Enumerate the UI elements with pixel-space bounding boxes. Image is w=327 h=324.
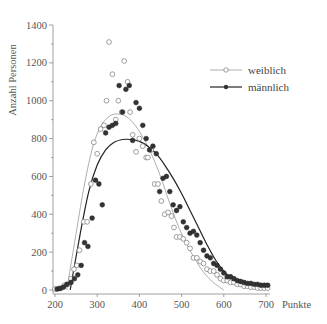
point-weiblich bbox=[110, 72, 115, 77]
point-maennlich bbox=[157, 189, 162, 194]
point-maennlich bbox=[103, 130, 108, 135]
point-maennlich bbox=[93, 178, 98, 183]
point-weiblich bbox=[145, 155, 150, 160]
y-tick-label: 0 bbox=[42, 285, 47, 296]
point-maennlich bbox=[221, 271, 226, 276]
point-weiblich bbox=[184, 240, 189, 245]
point-maennlich bbox=[69, 280, 74, 285]
point-maennlich bbox=[117, 83, 122, 88]
point-weiblich bbox=[128, 110, 133, 115]
point-weiblich bbox=[156, 182, 161, 187]
fit-curves bbox=[67, 114, 266, 290]
point-weiblich bbox=[91, 140, 96, 145]
data-points bbox=[53, 40, 270, 292]
legend-marker-maennlich bbox=[224, 85, 228, 89]
x-tick-label: 400 bbox=[132, 299, 148, 310]
point-maennlich bbox=[144, 136, 149, 141]
point-maennlich bbox=[75, 272, 80, 277]
point-maennlich bbox=[130, 138, 135, 143]
point-maennlich bbox=[265, 283, 270, 288]
y-tick-label: 1400 bbox=[26, 20, 47, 31]
x-tick-label: 200 bbox=[47, 299, 63, 310]
point-maennlich bbox=[137, 106, 142, 111]
point-maennlich bbox=[140, 123, 145, 128]
point-weiblich bbox=[137, 136, 142, 141]
point-weiblich bbox=[130, 132, 135, 137]
point-maennlich bbox=[167, 189, 172, 194]
legend-label-weiblich: weiblich bbox=[248, 64, 286, 76]
y-tick-label: 400 bbox=[31, 209, 47, 220]
point-weiblich bbox=[159, 199, 164, 204]
point-weiblich bbox=[88, 182, 93, 187]
point-maennlich bbox=[171, 202, 176, 207]
point-weiblich bbox=[107, 40, 112, 45]
y-axis-title: Anzahl Personen bbox=[7, 44, 18, 116]
point-maennlich bbox=[164, 174, 169, 179]
x-tick-label: 300 bbox=[89, 299, 105, 310]
point-weiblich bbox=[169, 214, 174, 219]
point-maennlich bbox=[90, 216, 95, 221]
point-weiblich bbox=[172, 225, 177, 230]
point-weiblich bbox=[104, 98, 109, 103]
point-maennlich bbox=[218, 267, 223, 272]
point-maennlich bbox=[184, 225, 189, 230]
x-tick-label: 500 bbox=[174, 299, 190, 310]
point-maennlich bbox=[215, 263, 220, 268]
point-maennlich bbox=[151, 144, 156, 149]
point-weiblich bbox=[201, 261, 206, 266]
point-maennlich bbox=[86, 244, 91, 249]
x-tick-label: 700 bbox=[258, 299, 274, 310]
point-maennlich bbox=[82, 240, 87, 245]
x-axis-title: Punkte bbox=[282, 299, 312, 310]
point-maennlich bbox=[174, 208, 179, 213]
point-maennlich bbox=[198, 240, 203, 245]
legend-label-maennlich: männlich bbox=[248, 81, 289, 93]
point-maennlich bbox=[113, 121, 118, 126]
point-maennlich bbox=[191, 229, 196, 234]
point-weiblich bbox=[77, 248, 82, 253]
y-tick-label: 600 bbox=[31, 171, 47, 182]
point-maennlich bbox=[120, 110, 125, 115]
point-weiblich bbox=[95, 151, 100, 156]
legend-marker-weiblich bbox=[224, 68, 228, 72]
legend: weiblichmännlich bbox=[210, 64, 289, 93]
point-maennlich bbox=[123, 87, 128, 92]
y-tick-label: 1200 bbox=[26, 57, 47, 68]
point-weiblich bbox=[102, 123, 107, 128]
y-tick-label: 800 bbox=[31, 133, 47, 144]
point-weiblich bbox=[116, 98, 121, 103]
x-tick-label: 600 bbox=[216, 299, 232, 310]
point-maennlich bbox=[178, 204, 183, 209]
point-maennlich bbox=[72, 276, 77, 281]
y-tick-label: 1000 bbox=[26, 95, 47, 106]
point-maennlich bbox=[201, 248, 206, 253]
point-weiblich bbox=[134, 149, 139, 154]
point-maennlich bbox=[208, 255, 213, 260]
point-maennlich bbox=[96, 182, 101, 187]
point-weiblich bbox=[85, 219, 90, 224]
point-weiblich bbox=[188, 246, 193, 251]
point-weiblich bbox=[140, 144, 145, 149]
chart: 0200400600800100012001400200300400500600… bbox=[0, 0, 327, 324]
point-maennlich bbox=[147, 148, 152, 153]
point-maennlich bbox=[134, 100, 139, 105]
point-weiblich bbox=[122, 59, 127, 64]
point-maennlich bbox=[100, 202, 105, 207]
point-maennlich bbox=[154, 151, 159, 156]
point-maennlich bbox=[127, 83, 132, 88]
point-maennlich bbox=[194, 233, 199, 238]
point-maennlich bbox=[79, 263, 84, 268]
point-maennlich bbox=[181, 219, 186, 224]
y-tick-label: 200 bbox=[31, 247, 47, 258]
